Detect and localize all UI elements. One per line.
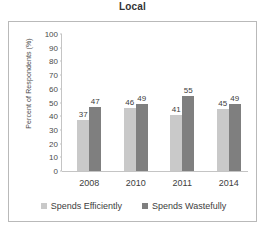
plot-area: 1009080706050403020100 37472008464920104… — [61, 34, 248, 171]
bar-value-label: 49 — [137, 94, 146, 103]
bar-2011-wastefully[interactable]: 55 — [182, 96, 194, 171]
x-axis-line — [62, 171, 248, 172]
bar-2008-efficiently[interactable]: 37 — [77, 120, 89, 171]
bar-value-label: 37 — [79, 110, 88, 119]
y-tick-label-0: 0 — [54, 167, 58, 176]
bar-value-label: 45 — [218, 99, 227, 108]
y-tick-label-80: 80 — [49, 57, 58, 66]
chart-legend: Spends EfficientlySpends Wastefully — [9, 201, 258, 211]
y-tick-label-30: 30 — [49, 125, 58, 134]
x-tick-label-2008: 2008 — [79, 178, 99, 188]
bar-value-label: 46 — [125, 98, 134, 107]
legend-label: Spends Efficiently — [51, 201, 122, 211]
y-tick-label-10: 10 — [49, 153, 58, 162]
y-tick-mark-20 — [60, 143, 62, 144]
bar-group-2014: 45492014 — [217, 34, 241, 171]
y-tick-mark-90 — [60, 47, 62, 48]
bar-2014-wastefully[interactable]: 49 — [229, 104, 241, 171]
bar-value-label: 41 — [172, 105, 181, 114]
bar-value-label: 55 — [184, 86, 193, 95]
chart-title: Local — [0, 1, 265, 12]
y-tick-label-50: 50 — [49, 98, 58, 107]
legend-item-efficiently[interactable]: Spends Efficiently — [41, 201, 122, 211]
y-tick-mark-100 — [60, 34, 62, 35]
y-tick-label-90: 90 — [49, 43, 58, 52]
y-tick-mark-50 — [60, 102, 62, 103]
bar-2008-wastefully[interactable]: 47 — [89, 107, 101, 171]
y-tick-mark-30 — [60, 129, 62, 130]
y-axis-title: Percent of Respondents (%) — [25, 24, 32, 144]
y-tick-label-100: 100 — [45, 30, 58, 39]
y-tick-mark-10 — [60, 157, 62, 158]
bar-group-2011: 41552011 — [170, 34, 194, 171]
bar-group-2010: 46492010 — [124, 34, 148, 171]
x-tick-label-2014: 2014 — [219, 178, 239, 188]
legend-item-wastefully[interactable]: Spends Wastefully — [142, 201, 226, 211]
y-tick-mark-70 — [60, 75, 62, 76]
bar-2010-efficiently[interactable]: 46 — [124, 108, 136, 171]
y-tick-label-40: 40 — [49, 112, 58, 121]
y-tick-label-20: 20 — [49, 139, 58, 148]
bar-value-label: 47 — [91, 97, 100, 106]
chart-frame: Percent of Respondents (%) 1009080706050… — [8, 21, 257, 222]
legend-swatch-icon — [41, 203, 47, 209]
y-tick-label-70: 70 — [49, 71, 58, 80]
bar-value-label: 49 — [230, 94, 239, 103]
bar-2011-efficiently[interactable]: 41 — [170, 115, 182, 171]
legend-swatch-icon — [142, 203, 148, 209]
bar-2014-efficiently[interactable]: 45 — [217, 109, 229, 171]
x-tick-label-2010: 2010 — [126, 178, 146, 188]
x-tick-label-2011: 2011 — [173, 178, 192, 188]
bar-2010-wastefully[interactable]: 49 — [136, 104, 148, 171]
y-tick-mark-60 — [60, 88, 62, 89]
y-tick-mark-40 — [60, 116, 62, 117]
y-tick-mark-80 — [60, 61, 62, 62]
y-tick-mark-0 — [60, 171, 62, 172]
legend-label: Spends Wastefully — [152, 201, 226, 211]
y-tick-label-60: 60 — [49, 84, 58, 93]
bar-group-2008: 37472008 — [77, 34, 101, 171]
